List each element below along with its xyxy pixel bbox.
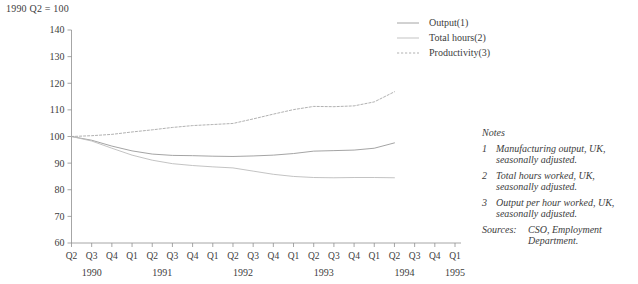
chart-line-output-1 [72, 137, 395, 157]
x-axis-tick-label: Q3 [247, 251, 259, 261]
x-axis-year-label: 1991 [152, 267, 172, 278]
chart-axes [72, 30, 462, 243]
x-axis-tick-label: Q2 [66, 251, 78, 261]
legend-label-1: Output(1) [429, 17, 468, 29]
x-axis-year-label: 1992 [233, 267, 253, 278]
x-axis-tick-label: Q3 [409, 251, 421, 261]
x-axis-tick-label: Q4 [348, 251, 360, 261]
sources-text: CSO, Employment Department. [528, 224, 634, 247]
y-axis-tick-label: 140 [50, 24, 65, 35]
x-axis-tick-label: Q3 [86, 251, 98, 261]
y-axis-tick-label: 60 [55, 237, 65, 248]
note-item: 3 Output per hour worked, UK, seasonally… [482, 197, 634, 220]
notes-title: Notes [482, 127, 634, 139]
x-axis-tick-label: Q4 [106, 251, 118, 261]
note-text: Output per hour worked, UK, seasonally a… [496, 197, 634, 220]
x-axis-year-label: 1993 [314, 267, 334, 278]
y-axis-tick-label: 110 [50, 104, 65, 115]
x-axis-tick-label: Q4 [268, 251, 280, 261]
x-axis-year-label: 1990 [82, 267, 102, 278]
y-axis-tick-label: 120 [50, 78, 65, 89]
legend-label-2: Total hours(2) [429, 32, 486, 44]
x-axis-tick-label: Q2 [227, 251, 239, 261]
x-axis-tick-label: Q1 [207, 251, 219, 261]
notes-panel: Notes 1 Manufacturing output, UK, season… [482, 127, 634, 247]
y-axis-tick-label: 90 [55, 158, 65, 169]
sources-label: Sources: [482, 224, 528, 247]
x-axis-year-label: 1994 [395, 267, 415, 278]
y-axis-ticks: 60708090100110120130140 [50, 24, 72, 248]
sources-row: Sources: CSO, Employment Department. [482, 224, 634, 247]
note-number: 3 [482, 197, 496, 220]
x-axis-tick-label: Q2 [146, 251, 158, 261]
x-axis-tick-label: Q1 [449, 251, 461, 261]
chart-series-group [72, 92, 395, 178]
chart-line-productivity-3 [72, 92, 395, 137]
x-axis-tick-label: Q3 [328, 251, 340, 261]
legend-label-3: Productivity(3) [429, 47, 490, 59]
note-number: 1 [482, 143, 496, 166]
y-axis-tick-label: 100 [50, 131, 65, 142]
x-axis-tick-label: Q3 [167, 251, 179, 261]
chart-legend: Output(1)Total hours(2)Productivity(3) [397, 17, 490, 59]
y-axis-tick-label: 70 [55, 211, 65, 222]
x-axis-tick-label: Q2 [389, 251, 401, 261]
x-axis-tick-label: Q2 [308, 251, 320, 261]
x-axis-tick-label: Q4 [187, 251, 199, 261]
x-axis-tick-label: Q4 [429, 251, 441, 261]
y-axis-tick-label: 80 [55, 184, 65, 195]
x-axis-tick-label: Q1 [368, 251, 380, 261]
note-number: 2 [482, 170, 496, 193]
note-text: Manufacturing output, UK, seasonally adj… [496, 143, 634, 166]
x-axis-year-label: 1995 [445, 267, 465, 278]
x-axis-tick-label: Q1 [126, 251, 138, 261]
chart-line-total-hours-2 [72, 137, 395, 178]
note-text: Total hours worked, UK, seasonally adjus… [496, 170, 634, 193]
note-item: 2 Total hours worked, UK, seasonally adj… [482, 170, 634, 193]
y-axis-tick-label: 130 [50, 51, 65, 62]
note-item: 1 Manufacturing output, UK, seasonally a… [482, 143, 634, 166]
chart-figure: 1990 Q2 = 100 60708090100110120130140 Q2… [0, 0, 638, 284]
x-axis-tick-label: Q1 [288, 251, 300, 261]
x-axis-ticks: Q2Q3Q4Q1Q2Q3Q4Q1Q2Q3Q4Q1Q2Q3Q4Q1Q2Q3Q4Q1… [66, 243, 465, 278]
